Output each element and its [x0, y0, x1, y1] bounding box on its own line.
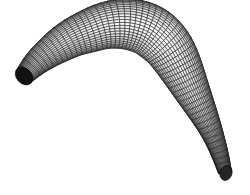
mesh-face: [120, 25, 125, 28]
mesh-face: [115, 31, 120, 34]
mesh-face: [115, 28, 120, 31]
mesh-face: [119, 14, 125, 17]
mesh-face: [115, 25, 120, 28]
mesh-face: [119, 17, 125, 20]
mesh-face: [118, 11, 124, 14]
mesh-face: [119, 20, 125, 23]
mesh-face: [116, 36, 121, 38]
mesh-face: [120, 28, 125, 31]
figure-root: [0, 0, 250, 195]
mesh-face: [115, 34, 120, 37]
wireframe-mesh-figure: [0, 0, 250, 195]
mesh-face: [120, 22, 125, 25]
